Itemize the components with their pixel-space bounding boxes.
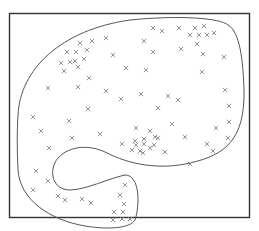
x-marker-icon [121,210,125,214]
x-marker-icon [59,61,63,65]
x-marker-icon [226,136,230,140]
x-marker-icon [148,129,152,133]
x-marker-icon [89,201,93,205]
x-marker-icon [163,150,167,154]
x-marker-icon [67,119,71,123]
x-marker-icon [227,104,231,108]
x-marker-icon [151,50,155,54]
x-marker-icon [214,126,218,130]
x-marker-icon [85,48,89,52]
x-marker-icon [70,136,74,140]
frame-border [10,14,250,218]
x-marker-icon [166,94,170,98]
x-marker-icon [104,36,108,40]
x-marker-icon [177,26,181,30]
x-marker-icon [202,24,206,28]
x-marker-icon [104,89,108,93]
x-marker-icon [200,70,204,74]
x-marker-icon [176,98,180,102]
x-marker-icon [47,146,51,150]
diagram-canvas [0,0,259,231]
x-marker-icon [197,33,201,37]
x-marker-icon [31,188,35,192]
x-marker-icon [80,197,84,201]
x-marker-icon [201,52,205,56]
x-marker-icon [211,149,215,153]
x-marker-icon [123,183,127,187]
x-marker-icon [151,26,155,30]
x-marker-icon [156,106,160,110]
x-marker-icon [152,143,156,147]
x-marker-icon [63,198,67,202]
x-marker-icon [142,39,146,43]
x-marker-icon [78,41,82,45]
x-marker-icon [183,135,187,139]
x-marker-icon [74,50,78,54]
x-marker-icon [31,115,35,119]
x-marker-icon [130,148,134,152]
x-marker-icon [122,202,126,206]
x-marker-icon [212,31,216,35]
x-marker-icon [68,60,72,64]
x-marker-icon [62,69,66,73]
x-marker-icon [90,39,94,43]
x-marker-icon [46,179,50,183]
x-marker-icon [76,65,80,69]
x-marker-icon [188,162,192,166]
x-marker-icon [34,169,38,173]
x-marker-icon [223,88,227,92]
x-marker-icon [134,126,138,130]
x-marker-icon [144,68,148,72]
x-marker-icon [205,142,209,146]
x-marker-icon [87,76,91,80]
x-marker-icon [179,47,183,51]
x-marker-icon [56,194,60,198]
x-marker-icon [124,66,128,70]
x-marker-icon [160,29,164,33]
x-marker-icon [39,129,43,133]
x-marker-icon [98,132,102,136]
x-marker-icon [120,142,124,146]
x-marker-icon [73,59,77,63]
x-marker-icon [222,55,226,59]
x-marker-icon [195,42,199,46]
x-marker-icon [193,26,197,30]
x-marker-icon [86,107,90,111]
x-marker-icon [46,86,50,90]
region-boundary [17,18,244,228]
x-marker-icon [170,122,174,126]
x-marker-icon [139,92,143,96]
x-marker-icon [112,210,116,214]
x-marker-icon [227,120,231,124]
x-marker-icon [205,33,209,37]
x-marker-icon [119,97,123,101]
x-marker-icon [142,142,146,146]
x-marker-icon [65,50,69,54]
x-marker-icon [111,53,115,57]
scatter-points [31,24,231,222]
x-marker-icon [148,146,152,150]
x-marker-icon [188,33,192,37]
x-marker-icon [118,193,122,197]
x-marker-icon [133,139,137,143]
x-marker-icon [111,218,115,222]
x-marker-icon [134,143,138,147]
x-marker-icon [142,137,146,141]
x-marker-icon [76,85,80,89]
x-marker-icon [82,57,86,61]
